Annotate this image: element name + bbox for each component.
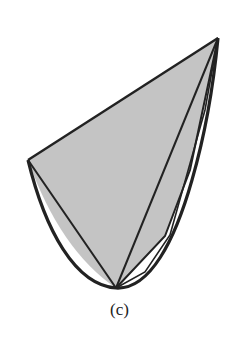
figure-caption: (c) [0,300,239,320]
parabola-triangulation-diagram [0,0,239,339]
figure-c: (c) [0,0,239,339]
